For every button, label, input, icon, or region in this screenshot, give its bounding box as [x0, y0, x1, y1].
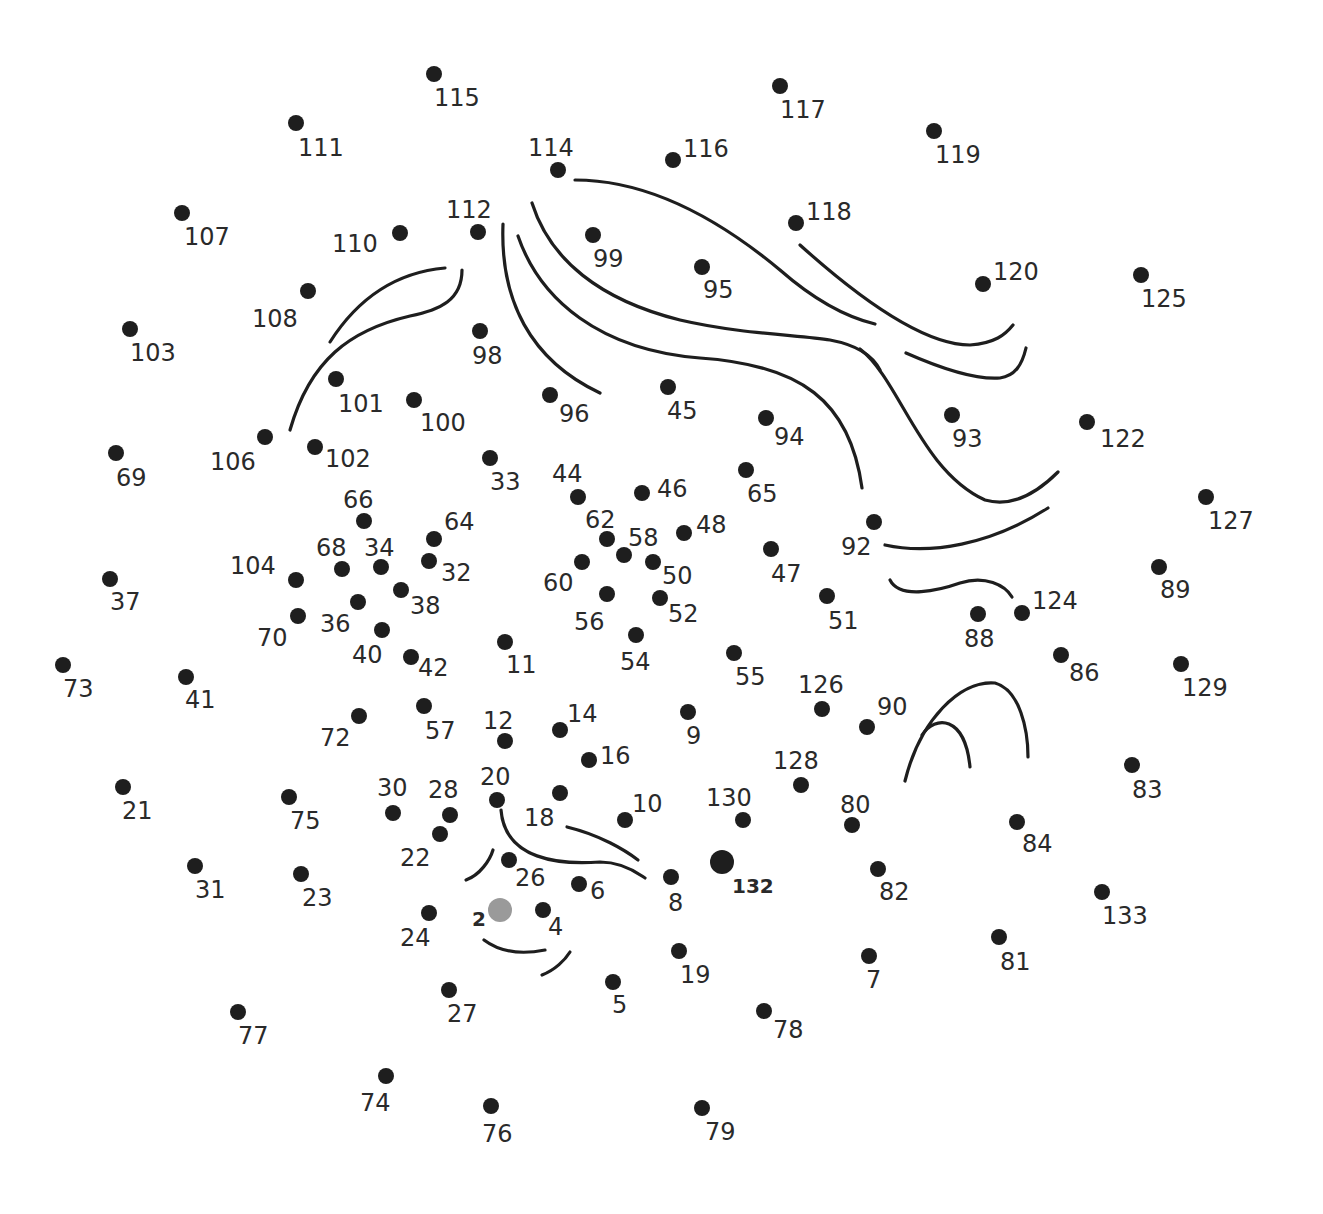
dot-117[interactable]: 117 [772, 78, 826, 124]
dot-marker[interactable] [694, 1100, 710, 1116]
dot-marker[interactable] [735, 812, 751, 828]
dot-7[interactable]: 7 [861, 948, 881, 994]
dot-45[interactable]: 45 [660, 379, 698, 425]
dot-marker[interactable] [497, 733, 513, 749]
dot-marker[interactable] [122, 321, 138, 337]
dot-110[interactable]: 110 [332, 225, 408, 258]
dot-88[interactable]: 88 [964, 606, 995, 653]
dot-marker[interactable] [178, 669, 194, 685]
dot-24[interactable]: 24 [400, 905, 437, 952]
dot-marker[interactable] [663, 869, 679, 885]
dot-101[interactable]: 101 [328, 371, 384, 418]
dot-115[interactable]: 115 [426, 66, 480, 112]
dot-marker[interactable] [1094, 884, 1110, 900]
dot-46[interactable]: 46 [634, 475, 688, 503]
dot-2[interactable]: 2 [472, 898, 512, 931]
dot-106[interactable]: 106 [210, 429, 273, 476]
dot-5[interactable]: 5 [605, 974, 627, 1019]
dot-marker[interactable] [763, 541, 779, 557]
dot-marker[interactable] [628, 627, 644, 643]
dot-44[interactable]: 44 [552, 460, 586, 505]
dot-marker[interactable] [552, 785, 568, 801]
dot-marker[interactable] [1124, 757, 1140, 773]
dot-marker[interactable] [392, 225, 408, 241]
dot-marker[interactable] [944, 407, 960, 423]
dot-116[interactable]: 116 [665, 135, 729, 168]
dot-marker[interactable] [174, 205, 190, 221]
dot-41[interactable]: 41 [178, 669, 216, 714]
dot-125[interactable]: 125 [1133, 267, 1187, 313]
dot-marker[interactable] [1198, 489, 1214, 505]
dot-6[interactable]: 6 [571, 876, 605, 905]
dot-77[interactable]: 77 [230, 1004, 269, 1050]
dot-marker[interactable] [328, 371, 344, 387]
dot-marker[interactable] [970, 606, 986, 622]
dot-47[interactable]: 47 [763, 541, 802, 588]
dot-marker[interactable] [617, 812, 633, 828]
dot-52[interactable]: 52 [652, 590, 699, 628]
dot-marker[interactable] [793, 777, 809, 793]
dot-76[interactable]: 76 [482, 1098, 513, 1148]
dot-62[interactable]: 62 [585, 506, 616, 547]
dot-57[interactable]: 57 [416, 698, 456, 745]
dot-marker[interactable] [926, 123, 942, 139]
dot-129[interactable]: 129 [1173, 656, 1228, 702]
dot-95[interactable]: 95 [694, 259, 734, 304]
dot-marker[interactable] [350, 594, 366, 610]
dot-111[interactable]: 111 [288, 115, 344, 162]
dot-127[interactable]: 127 [1198, 489, 1254, 535]
dot-66[interactable]: 66 [343, 486, 374, 529]
dot-51[interactable]: 51 [819, 588, 859, 635]
dot-marker[interactable] [1173, 656, 1189, 672]
dot-marker[interactable] [991, 929, 1007, 945]
dot-marker[interactable] [676, 525, 692, 541]
dot-23[interactable]: 23 [293, 866, 333, 912]
dot-132[interactable]: 132 [710, 850, 774, 898]
dot-98[interactable]: 98 [472, 323, 503, 370]
dot-54[interactable]: 54 [620, 627, 651, 676]
dot-64[interactable]: 64 [426, 508, 475, 547]
dot-70[interactable]: 70 [257, 608, 306, 652]
dot-19[interactable]: 19 [671, 943, 711, 989]
dot-marker[interactable] [680, 704, 696, 720]
dot-60[interactable]: 60 [543, 554, 590, 597]
dot-104[interactable]: 104 [230, 552, 304, 588]
dot-marker[interactable] [542, 387, 558, 403]
dot-75[interactable]: 75 [281, 789, 321, 835]
dot-marker[interactable] [115, 779, 131, 795]
dot-11[interactable]: 11 [497, 634, 537, 679]
dot-78[interactable]: 78 [756, 1003, 804, 1044]
dot-122[interactable]: 122 [1079, 414, 1146, 453]
dot-marker[interactable] [288, 115, 304, 131]
dot-marker[interactable] [1133, 267, 1149, 283]
dot-21[interactable]: 21 [115, 779, 153, 825]
dot-10[interactable]: 10 [617, 790, 663, 828]
dot-marker[interactable] [660, 379, 676, 395]
dot-marker[interactable] [441, 982, 457, 998]
dot-marker[interactable] [426, 66, 442, 82]
dot-81[interactable]: 81 [991, 929, 1031, 976]
dot-marker[interactable] [571, 876, 587, 892]
dot-102[interactable]: 102 [307, 439, 371, 473]
dot-100[interactable]: 100 [406, 392, 466, 437]
dot-118[interactable]: 118 [788, 198, 852, 231]
dot-18[interactable]: 18 [524, 785, 568, 832]
dot-marker[interactable] [738, 462, 754, 478]
dot-36[interactable]: 36 [320, 594, 366, 638]
dot-marker[interactable] [351, 708, 367, 724]
dot-marker[interactable] [570, 489, 586, 505]
dot-marker[interactable] [442, 807, 458, 823]
dot-marker[interactable] [300, 283, 316, 299]
dot-marker[interactable] [432, 826, 448, 842]
dot-marker[interactable] [645, 554, 661, 570]
dot-marker[interactable] [1014, 605, 1030, 621]
dot-marker[interactable] [671, 943, 687, 959]
dot-marker[interactable] [288, 572, 304, 588]
dot-marker[interactable] [870, 861, 886, 877]
dot-22[interactable]: 22 [400, 826, 448, 872]
dot-marker[interactable] [975, 276, 991, 292]
dot-32[interactable]: 32 [421, 553, 472, 587]
dot-79[interactable]: 79 [694, 1100, 736, 1146]
dot-86[interactable]: 86 [1053, 647, 1100, 687]
dot-marker[interactable] [257, 429, 273, 445]
